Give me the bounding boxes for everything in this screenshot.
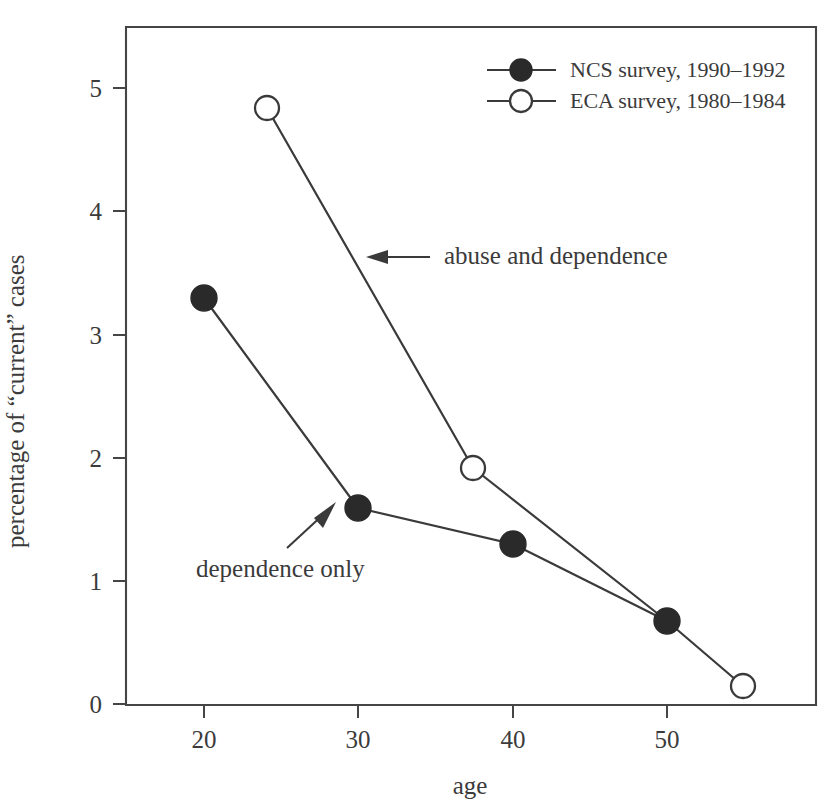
y-tick-label-5: 5 <box>62 75 102 103</box>
legend-label-ncs: NCS survey, 1990–1992 <box>570 57 786 83</box>
x-tick-label-50: 50 <box>637 726 697 754</box>
plot-frame <box>126 27 816 705</box>
chart-canvas <box>0 0 830 809</box>
annotation-label-dependence-only: dependence only <box>196 555 365 583</box>
series-markers-eca <box>255 96 755 698</box>
annotation-arrow-dependence-only <box>287 502 336 548</box>
x-tick-label-40: 40 <box>483 726 543 754</box>
annotation-arrow-abuse-and-dependence <box>366 250 430 264</box>
x-tick-label-30: 30 <box>328 726 388 754</box>
y-axis-title: percentage of “current” cases <box>2 254 30 548</box>
y-tick-label-0: 0 <box>62 691 102 719</box>
legend-sample-eca <box>487 90 556 112</box>
annotation-label-abuse-and-dependence: abuse and dependence <box>444 242 668 270</box>
legend-sample-ncs <box>487 59 556 81</box>
chart-figure: 0 1 2 3 4 5 20 30 40 50 age percentage o… <box>0 0 830 809</box>
series-line-eca <box>267 108 743 686</box>
x-tick-label-20: 20 <box>174 726 234 754</box>
legend-label-eca: ECA survey, 1980–1984 <box>570 88 786 114</box>
x-axis-ticks <box>204 705 667 718</box>
y-axis-ticks <box>113 88 126 704</box>
y-tick-label-3: 3 <box>62 322 102 350</box>
x-axis-title: age <box>410 772 530 800</box>
y-tick-label-1: 1 <box>62 568 102 596</box>
y-tick-label-2: 2 <box>62 445 102 473</box>
y-tick-label-4: 4 <box>62 198 102 226</box>
